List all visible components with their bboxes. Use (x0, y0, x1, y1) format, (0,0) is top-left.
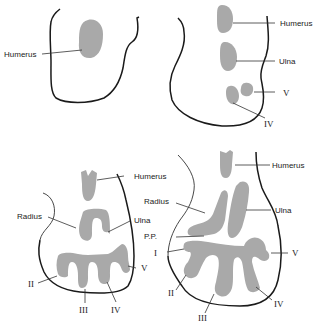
label-humerus: Humerus (272, 161, 304, 170)
humerus-condensation (79, 20, 103, 58)
limb-development-diagram: Humerus Humerus Ulna V IV Humerus Radius… (0, 0, 327, 327)
label-digit-ii: II (28, 279, 34, 289)
humerus-condensation (81, 170, 97, 201)
limb-bud-contour (40, 193, 55, 240)
label-radius: Radius (144, 197, 169, 206)
label-digit-iv: IV (274, 299, 284, 309)
autopod-digits-condensation (57, 244, 131, 288)
label-digit-iv: IV (264, 119, 274, 129)
digit-iv-condensation (226, 86, 239, 104)
digit-v-condensation (241, 83, 254, 96)
limb-bud-outline (170, 16, 269, 126)
label-humerus: Humerus (4, 50, 36, 59)
humerus-condensation (217, 5, 233, 33)
panel-stage-2: Humerus Ulna V IV (170, 5, 313, 129)
label-ulna: Ulna (279, 57, 296, 66)
radius-condensation (188, 190, 228, 236)
label-radius: Radius (17, 212, 42, 221)
label-humerus: Humerus (280, 19, 312, 28)
label-digit-iii: III (198, 313, 207, 323)
label-ulna: Ulna (275, 206, 292, 215)
label-digit-v: V (141, 263, 148, 273)
panel-stage-3: Humerus Radius Ulna II III IV V (17, 170, 166, 315)
ulna-condensation (220, 42, 237, 71)
label-digit-i: I (154, 248, 157, 258)
label-digit-iii: III (79, 305, 88, 315)
label-pp: P.P. (144, 232, 157, 241)
label-digit-iv: IV (111, 305, 121, 315)
label-humerus: Humerus (134, 172, 166, 181)
panel-stage-1: Humerus (4, 9, 139, 103)
humerus-condensation (220, 150, 233, 178)
panel-stage-4: Humerus Radius Ulna P.P. I V II III IV (144, 150, 304, 323)
label-digit-ii: II (168, 288, 174, 298)
label-ulna: Ulna (134, 216, 151, 225)
radius-ulna-condensation (79, 209, 110, 241)
ulna-condensation (228, 181, 250, 238)
limb-bud-contour (168, 155, 194, 256)
label-digit-v: V (283, 88, 290, 98)
label-digit-v: V (292, 248, 299, 258)
